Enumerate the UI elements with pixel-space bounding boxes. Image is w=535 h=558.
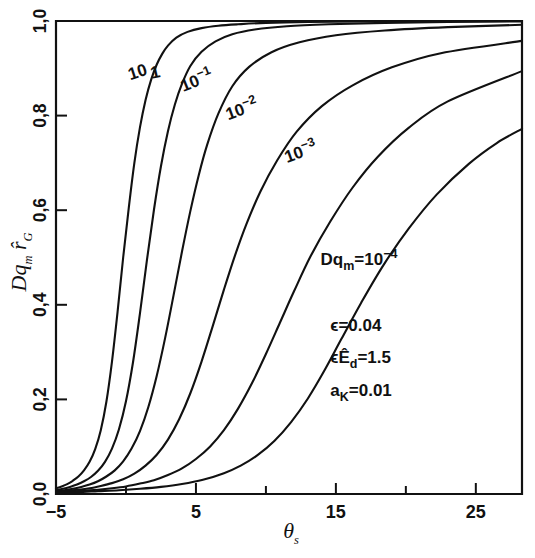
y-tick-label: 0,0 xyxy=(30,482,50,507)
param-epsilon-ed: ϵÊd=1.5 xyxy=(330,348,391,371)
curve-1 xyxy=(56,21,522,490)
curve-label-10^-2: 10−2 xyxy=(222,92,261,124)
curve-10^-4 xyxy=(56,129,522,493)
curve-label-10^-1: 10−1 xyxy=(177,63,216,96)
svg-text:θs: θs xyxy=(283,518,299,547)
chart-svg: −551525 0,00,20,40,60,81,0 10110−110−210… xyxy=(0,0,535,558)
x-tick-label: 5 xyxy=(191,502,201,522)
plot-frame xyxy=(56,21,522,494)
y-axis-title: Dqm r̂G xyxy=(6,232,35,292)
figure-panel: −551525 0,00,20,40,60,81,0 10110−110−210… xyxy=(0,0,535,558)
data-curves xyxy=(56,21,522,493)
curve-labels: 10110−110−210−3 xyxy=(126,60,320,167)
svg-text:Dqm r̂G: Dqm r̂G xyxy=(6,232,35,292)
x-axis-title: θs xyxy=(283,518,299,547)
param-epsilon: ϵ=0.04 xyxy=(330,316,382,335)
y-tick-label: 0,4 xyxy=(30,292,50,317)
y-tick-label: 0,6 xyxy=(30,198,50,223)
x-tick-label: 25 xyxy=(466,502,486,522)
curve-label-10: 10 xyxy=(126,60,150,84)
curve-10^-1 xyxy=(56,25,522,491)
y-axis-ticks xyxy=(56,21,67,494)
x-tick-label: 15 xyxy=(326,502,346,522)
curve-label-10^-3: 10−3 xyxy=(281,135,320,167)
curve-10^-3 xyxy=(56,71,522,492)
y-tick-label: 0,8 xyxy=(30,103,50,128)
x-axis-tick-labels: −551525 xyxy=(46,502,486,522)
y-tick-label: 1,0 xyxy=(30,9,50,34)
parameter-annotations: Dqm=10−4ϵ=0.04ϵÊd=1.5aK=0.01 xyxy=(320,247,397,404)
curve-10 xyxy=(56,21,522,488)
curve-label-dqm: Dqm=10−4 xyxy=(320,247,397,273)
y-tick-label: 0,2 xyxy=(30,387,50,412)
param-alpha-k: aK=0.01 xyxy=(330,381,392,404)
